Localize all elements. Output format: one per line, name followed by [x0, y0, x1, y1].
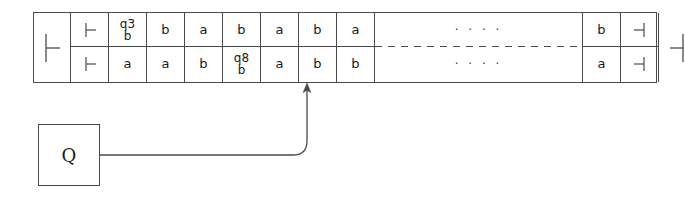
tape-cell-4-lower: b [185, 47, 222, 81]
tape-cell-1-lower [71, 47, 108, 81]
tape-cell-11-upper [621, 13, 658, 47]
tape-cell-2-upper: q3 b [109, 13, 146, 47]
tape-cell-6-lower-symbol: a [276, 57, 284, 71]
right-turnstile-icon [667, 31, 685, 65]
ellipsis-upper: · · · · [455, 23, 503, 37]
tape-cell-3-upper-symbol: b [161, 23, 169, 37]
tape-cell-11[interactable] [621, 13, 659, 82]
left-turnstile-icon [41, 31, 63, 65]
tape-cell-5-upper-symbol: b [237, 23, 245, 37]
tape-cell-7[interactable]: b b [299, 13, 337, 82]
tape-cell-7-lower: b [299, 47, 336, 81]
turnstile-icon [82, 55, 98, 73]
reverse-turnstile-icon [632, 55, 648, 73]
control-unit-box[interactable]: Q [38, 124, 100, 186]
tape-cell-4-upper-symbol: a [200, 23, 208, 37]
tape-cell-7-upper-symbol: b [313, 23, 321, 37]
tape-cell-10-lower-symbol: a [598, 57, 606, 71]
tape-cell-6[interactable]: a a [261, 13, 299, 82]
tape-cell-10[interactable]: b a [583, 13, 621, 82]
tape-cell-8-upper-symbol: a [352, 23, 360, 37]
tape-cell-5-lower-state-symbol: q8 b [234, 52, 249, 76]
tape: q3 b a b a a b b [33, 12, 657, 83]
tape-cell-2-lower-symbol: a [124, 57, 132, 71]
tape-cell-4-lower-symbol: b [199, 57, 207, 71]
tape-cell-right-endmarker[interactable] [659, 13, 685, 82]
tape-cell-4-upper: a [185, 13, 222, 47]
tape-cell-6-upper: a [261, 13, 298, 47]
tape-cell-3[interactable]: b a [147, 13, 185, 82]
tape-cell-10-lower: a [583, 47, 620, 81]
tape-cell-5-lower: q8 b [223, 47, 260, 81]
tape-cell-ellipsis: · · · · · · · · [375, 13, 583, 82]
tape-cell-8-lower-symbol: b [351, 57, 359, 71]
tape-cell-1[interactable] [71, 13, 109, 82]
tape-cell-ellipsis-lower: · · · · [375, 47, 582, 81]
tape-cell-2[interactable]: q3 b a [109, 13, 147, 82]
tape-cell-8[interactable]: a b [337, 13, 375, 82]
tape-cell-left-endmarker[interactable] [34, 13, 71, 82]
turing-machine-diagram: q3 b a b a a b b [0, 0, 685, 199]
tape-cell-ellipsis-upper: · · · · [375, 13, 582, 47]
tape-cell-10-upper: b [583, 13, 620, 47]
tape-cell-4[interactable]: a b [185, 13, 223, 82]
tape-cell-7-lower-symbol: b [313, 57, 321, 71]
tape-cell-6-upper-symbol: a [276, 23, 284, 37]
tape-cell-5[interactable]: b q8 b [223, 13, 261, 82]
tape-cell-8-upper: a [337, 13, 374, 47]
reverse-turnstile-icon [632, 21, 648, 39]
tape-cell-6-lower: a [261, 47, 298, 81]
tape-cell-11-lower [621, 47, 658, 81]
control-unit-label: Q [62, 145, 77, 166]
tape-cell-3-lower-symbol: a [162, 57, 170, 71]
tape-cell-7-upper: b [299, 13, 336, 47]
tape-cell-5-upper: b [223, 13, 260, 47]
tape-cell-3-lower: a [147, 47, 184, 81]
tape-cell-2-lower: a [109, 47, 146, 81]
tape-cell-3-upper: b [147, 13, 184, 47]
ellipsis-lower: · · · · [455, 57, 503, 71]
turnstile-icon [82, 21, 98, 39]
tape-cell-8-lower: b [337, 47, 374, 81]
tape-cell-1-upper [71, 13, 108, 47]
tape-cell-2-upper-state-symbol: q3 b [120, 18, 135, 42]
tape-cell-10-upper-symbol: b [597, 23, 605, 37]
